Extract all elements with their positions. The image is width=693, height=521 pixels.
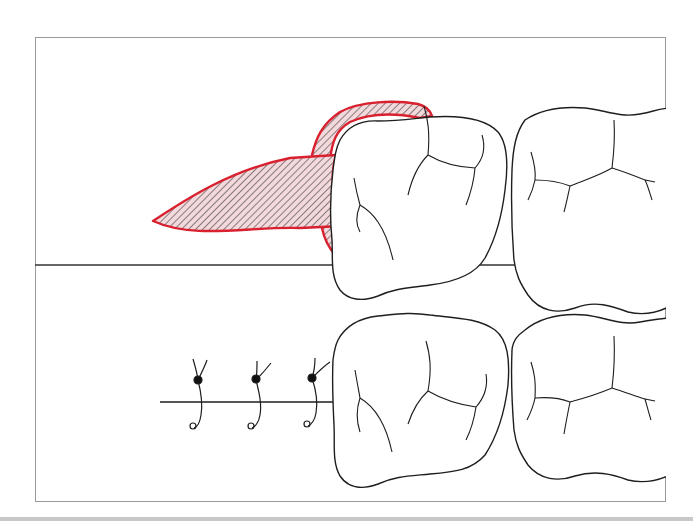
suture-2	[248, 361, 271, 429]
bottom-rule	[0, 517, 693, 521]
molar-1-top	[331, 116, 507, 299]
bottom-panel	[160, 313, 672, 487]
top-panel	[153, 102, 672, 314]
suture-3	[304, 358, 330, 427]
figure-canvas: Dental flap surgery illustration	[0, 0, 693, 521]
flap-triangle	[153, 155, 342, 231]
diagram-svg	[0, 0, 693, 521]
suture-1	[190, 359, 207, 429]
molar-2-top	[512, 108, 672, 314]
